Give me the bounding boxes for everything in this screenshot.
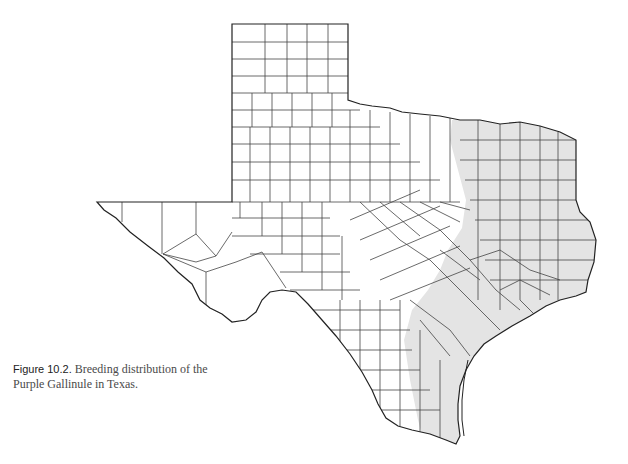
caption-text-line1: Breeding distribution of the: [72, 362, 208, 376]
breeding-range-shading: [404, 120, 600, 464]
texas-county-map: [0, 0, 628, 464]
figure-caption: Figure 10.2. Breeding distribution of th…: [13, 362, 243, 392]
caption-text-line2: Purple Gallinule in Texas.: [13, 377, 138, 391]
figure-label: Figure 10.2.: [13, 363, 72, 375]
